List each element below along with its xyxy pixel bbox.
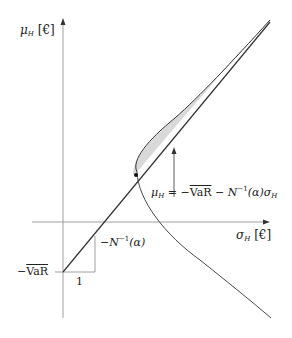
intercept-var: VaR bbox=[26, 265, 48, 278]
x-axis-sub: H bbox=[244, 235, 250, 243]
equation-mid: − N bbox=[211, 186, 237, 199]
slope-rise-prefix: −N bbox=[100, 236, 119, 249]
diagram-canvas bbox=[0, 0, 292, 338]
line-equation: μH = −VaR − N−1(α)σH bbox=[151, 186, 277, 200]
intercept-label: −VaR bbox=[17, 266, 48, 277]
x-axis-label: σH [€] bbox=[236, 229, 271, 243]
y-axis-var: μ bbox=[20, 23, 28, 37]
equation-tail-sub: H bbox=[271, 192, 277, 200]
intercept-minus: − bbox=[17, 265, 26, 278]
equation-var: VaR bbox=[190, 186, 212, 199]
y-axis-arrowhead bbox=[61, 18, 66, 25]
slope-rise-label: −N−1(α) bbox=[100, 236, 145, 248]
slope-rise-sup: −1 bbox=[119, 235, 129, 243]
equation-eq: = − bbox=[164, 186, 189, 199]
y-axis-unit: [€] bbox=[38, 23, 55, 37]
x-axis-var: σ bbox=[236, 228, 244, 242]
annotation-arrowhead bbox=[172, 147, 177, 154]
equation-sup: −1 bbox=[237, 185, 247, 193]
tangent-point bbox=[134, 173, 138, 177]
shaded-region bbox=[133, 40, 249, 175]
equation-tail: (α)σ bbox=[248, 186, 272, 199]
x-axis-arrowhead bbox=[263, 220, 270, 225]
slope-rise-suffix: (α) bbox=[129, 236, 145, 249]
y-axis-label: μH [€] bbox=[20, 24, 55, 38]
slope-run-label: 1 bbox=[76, 276, 83, 287]
x-axis-unit: [€] bbox=[254, 228, 271, 242]
y-axis-sub: H bbox=[28, 30, 34, 38]
